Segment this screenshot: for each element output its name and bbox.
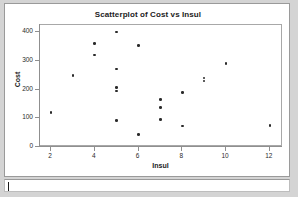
scatter-point [137,133,140,136]
scatter-point [115,86,118,89]
text-caret [8,182,9,191]
scatter-point [93,54,96,57]
scatter-points-layer [40,25,281,145]
scatter-point [203,80,206,83]
x-axis-tick-label: 6 [128,152,148,159]
x-axis-tick [94,147,95,151]
scatter-point [181,125,184,128]
y-axis-title: Cost [14,60,21,100]
application-root: Scatterplot of Cost vs Insul Cost 010020… [0,0,298,197]
scatter-point [203,77,206,80]
scatter-point [115,90,118,93]
scatter-point [93,42,96,45]
x-axis-tick [50,147,51,151]
x-axis-line [39,146,282,147]
scatter-point [115,31,118,34]
text-editor-strip[interactable] [4,179,290,192]
scatter-point [50,111,53,114]
scatter-point [159,118,162,121]
y-axis-tick-label: 400 [7,27,33,34]
graph-window: Scatterplot of Cost vs Insul Cost 010020… [4,3,290,177]
scatter-point [72,74,75,77]
scatter-point [115,119,118,122]
scatter-point [137,44,140,47]
x-axis-title: Insul [39,162,282,169]
y-axis-tick [35,60,39,61]
y-axis-tick-label: 300 [7,56,33,63]
y-axis-tick-label: 200 [7,85,33,92]
scatter-point [181,91,184,94]
x-axis-tick-label: 10 [215,152,235,159]
y-axis-tick [35,89,39,90]
scatter-point [159,106,162,109]
chart-title: Scatterplot of Cost vs Insul [5,10,291,19]
x-axis-tick-label: 4 [84,152,104,159]
x-axis-tick-label: 12 [259,152,279,159]
x-axis-tick-label: 2 [40,152,60,159]
y-axis-tick [35,117,39,118]
scatter-point [269,124,272,127]
y-axis-tick-label: 0 [7,142,33,149]
y-axis-tick [35,146,39,147]
y-axis-tick-label: 100 [7,113,33,120]
y-axis-line [39,24,40,146]
x-axis-tick [225,147,226,151]
plot-panel [39,24,282,146]
x-axis-tick [269,147,270,151]
x-axis-tick [138,147,139,151]
scatter-point [225,62,228,65]
x-axis-tick-label: 8 [171,152,191,159]
scatter-point [115,68,118,71]
x-axis-tick [181,147,182,151]
scatter-point [159,98,162,101]
y-axis-tick [35,31,39,32]
